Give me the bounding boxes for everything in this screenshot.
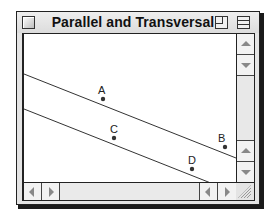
horizontal-scroll-track[interactable] <box>60 183 200 200</box>
scroll-right-button-right[interactable] <box>218 183 236 200</box>
resize-grip-icon <box>236 183 253 200</box>
window-title: Parallel and Transversal <box>45 14 221 30</box>
point-label-b: B <box>218 133 225 144</box>
point-label-a: A <box>98 85 105 96</box>
collapse-line-2 <box>238 24 249 25</box>
resize-grip[interactable] <box>236 182 255 201</box>
title-bar[interactable]: Parallel and Transversal <box>17 12 259 33</box>
arrow-up-icon <box>241 148 251 153</box>
scroll-up-button-lower[interactable] <box>237 141 254 162</box>
scroll-left-button[interactable] <box>24 183 42 200</box>
vertical-scroll-track[interactable] <box>237 76 254 141</box>
close-box-icon[interactable] <box>22 16 35 29</box>
arrow-left-icon <box>205 187 210 197</box>
arrow-down-icon <box>241 170 251 175</box>
collapse-line-1 <box>238 20 249 21</box>
arrow-down-icon <box>241 63 251 68</box>
drawing-area[interactable]: ABCD <box>22 33 236 182</box>
line-AB[interactable] <box>24 74 236 158</box>
vertical-scrollbar[interactable] <box>236 33 255 182</box>
collapse-box-icon[interactable] <box>237 16 250 29</box>
geometry-window: Parallel and Transversal ABCD <box>16 11 260 205</box>
geometry-figure[interactable] <box>24 34 236 182</box>
arrow-right-icon <box>49 187 54 197</box>
scroll-right-button[interactable] <box>42 183 60 200</box>
point-d[interactable] <box>190 167 194 171</box>
scroll-up-button[interactable] <box>237 34 254 55</box>
scroll-left-button-right[interactable] <box>200 183 218 200</box>
point-b[interactable] <box>223 145 227 149</box>
point-label-d: D <box>188 155 196 166</box>
scroll-down-button[interactable] <box>237 55 254 76</box>
arrow-left-icon <box>29 187 34 197</box>
arrow-right-icon <box>225 187 230 197</box>
horizontal-scrollbar[interactable] <box>22 182 236 201</box>
point-c[interactable] <box>112 136 116 140</box>
point-label-c: C <box>110 124 118 135</box>
point-a[interactable] <box>101 97 105 101</box>
zoom-box-inner <box>216 17 223 24</box>
scroll-down-button-lower[interactable] <box>237 162 254 183</box>
arrow-up-icon <box>241 41 251 46</box>
zoom-box-icon[interactable] <box>215 16 228 29</box>
